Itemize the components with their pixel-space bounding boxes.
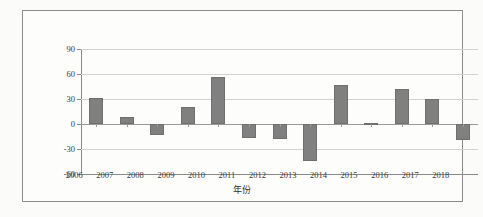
x-tick-label-2010: 2010 xyxy=(181,171,212,180)
bar-2007 xyxy=(120,117,134,124)
x-axis-tick xyxy=(371,124,372,127)
y-tick-label-60: 60 xyxy=(47,70,75,78)
x-tick-label-2014: 2014 xyxy=(303,171,334,180)
x-tick-label-2011: 2011 xyxy=(212,171,243,180)
figure-canvas: 90 60 30 0 -30 -60 20062007200820 xyxy=(0,0,483,217)
x-axis-tick xyxy=(157,124,158,127)
bar-2013 xyxy=(303,124,317,161)
bar-2006 xyxy=(89,98,103,124)
x-axis-tick xyxy=(280,124,281,127)
x-axis-tick xyxy=(310,124,311,127)
x-axis-tick xyxy=(127,124,128,127)
bar-2014 xyxy=(334,85,348,124)
x-axis-tick xyxy=(341,124,342,127)
x-tick-label-2006: 2006 xyxy=(59,171,90,180)
y-tick-label-0: 0 xyxy=(47,120,75,128)
y-tick-label-90: 90 xyxy=(47,45,75,53)
x-axis-tick xyxy=(402,124,403,127)
x-axis-tick xyxy=(432,124,433,127)
x-axis-title: 年份 xyxy=(0,183,483,196)
x-tick-label-2017: 2017 xyxy=(395,171,426,180)
x-tick-label-2007: 2007 xyxy=(90,171,121,180)
x-axis-tick xyxy=(249,124,250,127)
bar-2016 xyxy=(395,89,409,124)
x-tick-label-2013: 2013 xyxy=(273,171,304,180)
gridline-neg30 xyxy=(81,149,478,150)
x-tick-label-2016: 2016 xyxy=(364,171,395,180)
y-tick-label-neg30: -30 xyxy=(47,145,75,153)
bar-2010 xyxy=(211,77,225,124)
gridline-60 xyxy=(81,74,478,75)
x-axis-tick xyxy=(188,124,189,127)
x-tick-label-2008: 2008 xyxy=(120,171,151,180)
x-axis-tick xyxy=(218,124,219,127)
gridline-30 xyxy=(81,99,478,100)
x-tick-label-2015: 2015 xyxy=(334,171,365,180)
bar-2017 xyxy=(425,99,439,124)
y-tick-label-30: 30 xyxy=(47,95,75,103)
x-tick-label-2009: 2009 xyxy=(151,171,182,180)
gridline-90 xyxy=(81,49,478,50)
chart-frame: 90 60 30 0 -30 -60 20062007200820 xyxy=(22,10,463,202)
bar-2009 xyxy=(181,107,195,125)
x-tick-label-2012: 2012 xyxy=(242,171,273,180)
x-axis-tick xyxy=(96,124,97,127)
plot-area xyxy=(81,49,478,174)
x-tick-label-2018: 2018 xyxy=(425,171,456,180)
x-axis-tick xyxy=(463,124,464,127)
